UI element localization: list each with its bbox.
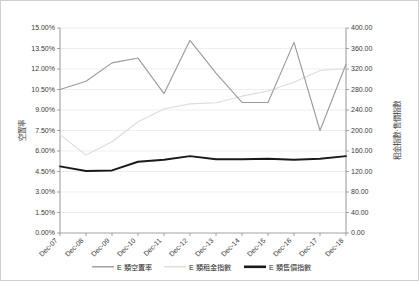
legend-label-3: E 類售價指數 <box>269 263 311 272</box>
x-axis-tick-label: Dec-12 <box>168 237 189 258</box>
right-axis-tick-label: 360.00 <box>351 45 373 52</box>
chart-legend: E 類空置率E 類租金指數E 類售價指數 <box>92 263 311 272</box>
left-axis-tick-label: 0.00% <box>35 229 55 236</box>
right-axis-tick-label: 0.00 <box>351 229 365 236</box>
right-axis-title: 租金指數‧售價指數 <box>392 100 402 159</box>
x-axis-tick-label: Dec-13 <box>194 237 215 258</box>
line-chart: 0.00%1.50%3.00%4.50%6.00%7.50%9.00%10.50… <box>1 1 419 281</box>
x-axis-tick-label: Dec-08 <box>64 237 85 258</box>
left-axis-tick-label: 12.00% <box>31 65 55 72</box>
left-axis-tick-label: 15.00% <box>31 24 55 31</box>
x-axis-tick-label: Dec-10 <box>116 237 137 258</box>
x-axis-tick-label: Dec-14 <box>220 237 241 258</box>
series-line-1 <box>60 40 346 130</box>
right-axis-tick-label: 400.00 <box>351 24 373 31</box>
right-axis-tick-label: 160.00 <box>351 147 373 154</box>
x-axis-tick-label: Dec-15 <box>246 237 267 258</box>
right-axis-tick-label: 80.00 <box>351 188 369 195</box>
left-axis-tick-label: 13.50% <box>31 45 55 52</box>
chart-frame: 0.00%1.50%3.00%4.50%6.00%7.50%9.00%10.50… <box>0 0 419 281</box>
right-axis-tick-label: 240.00 <box>351 106 373 113</box>
x-axis-tick-label: Dec-11 <box>142 237 163 258</box>
left-axis-tick-label: 10.50% <box>31 86 55 93</box>
left-axis-tick-label: 3.00% <box>35 188 55 195</box>
series-group <box>60 40 346 171</box>
axes <box>57 28 349 236</box>
series-line-2 <box>60 68 346 155</box>
gridlines <box>60 28 346 233</box>
x-axis-tick-label: Dec-16 <box>272 237 293 258</box>
legend-label-1: E 類空置率 <box>117 263 152 272</box>
left-axis-tick-label: 4.50% <box>35 168 55 175</box>
x-axis-tick-label: Dec-17 <box>298 237 319 258</box>
left-axis-tick-label: 1.50% <box>35 209 55 216</box>
right-axis-tick-label: 120.00 <box>351 168 373 175</box>
right-axis-tick-label: 280.00 <box>351 86 373 93</box>
right-axis-tick-label: 200.00 <box>351 127 373 134</box>
right-axis-tick-label: 320.00 <box>351 65 373 72</box>
right-axis-tick-label: 40.00 <box>351 209 369 216</box>
x-axis-tick-label: Dec-07 <box>38 237 59 258</box>
x-axis-tick-label: Dec-09 <box>90 237 111 258</box>
left-axis-tick-label: 6.00% <box>35 147 55 154</box>
series-line-3 <box>60 156 346 171</box>
left-axis-tick-label: 9.00% <box>35 106 55 113</box>
chart-plot-area: 0.00%1.50%3.00%4.50%6.00%7.50%9.00%10.50… <box>1 1 419 281</box>
legend-label-2: E 類租金指數 <box>189 263 231 272</box>
x-axis-tick-label: Dec-18 <box>324 237 345 258</box>
left-axis-tick-label: 7.50% <box>35 127 55 134</box>
left-axis-title: 空置率 <box>17 119 27 141</box>
